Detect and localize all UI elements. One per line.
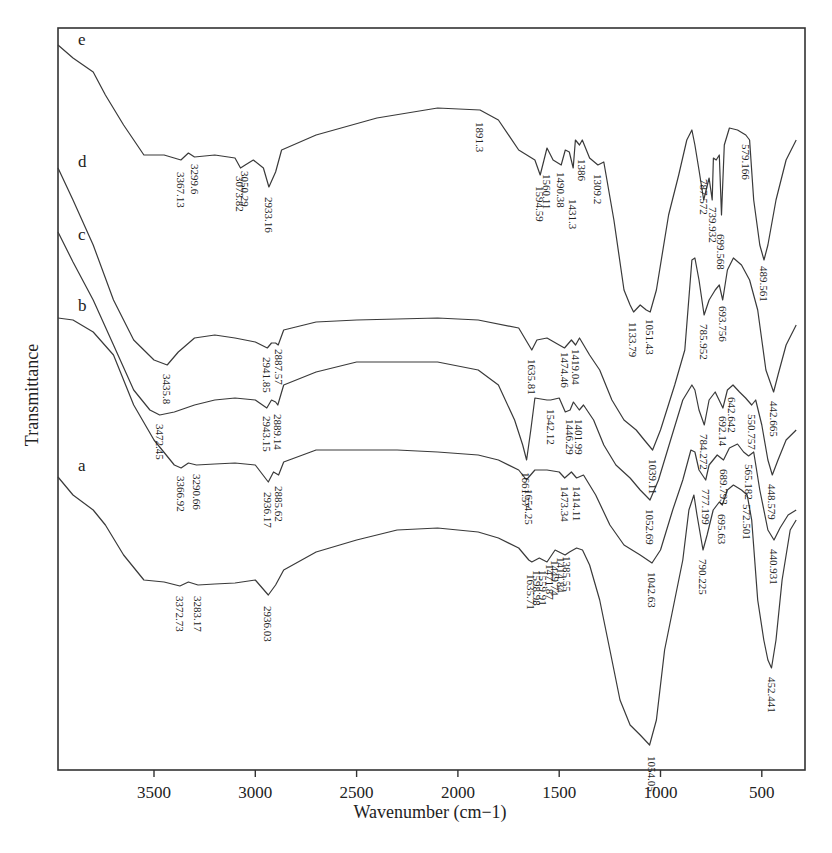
peak-label: 1054.05 bbox=[646, 756, 658, 792]
curve-label-d: d bbox=[78, 152, 87, 171]
peak-label: 642.642 bbox=[726, 397, 738, 433]
x-tick-label: 3500 bbox=[137, 783, 171, 802]
peak-labels-group: 3367.133299.63073.823050.292933.161891.3… bbox=[154, 122, 780, 792]
peak-label: 2887.57 bbox=[273, 349, 285, 385]
x-axis-label: Wavenumber (cm−1) bbox=[353, 802, 506, 823]
peak-label: 1039.11 bbox=[647, 459, 659, 494]
x-tick-label: 500 bbox=[749, 783, 775, 802]
peak-label: 1133.79 bbox=[627, 322, 639, 358]
peak-label: 442.665 bbox=[768, 401, 780, 437]
curve-label-a: a bbox=[78, 456, 86, 475]
peak-label: 3372.73 bbox=[174, 596, 186, 632]
peak-label: 1051.43 bbox=[644, 319, 656, 355]
peak-label: 777.199 bbox=[700, 489, 712, 525]
peak-label: 1474.46 bbox=[559, 352, 571, 388]
ftir-spectrum-chart: 350030002500200015001000500 3367.133299.… bbox=[0, 0, 832, 853]
y-axis-label: Transmittance bbox=[22, 344, 42, 446]
peak-label: 2889.14 bbox=[272, 414, 284, 450]
peak-label: 2941.85 bbox=[261, 357, 273, 393]
peak-label: 550.757 bbox=[746, 414, 758, 450]
peak-label: 3472.45 bbox=[154, 424, 166, 460]
curve-label-e: e bbox=[78, 30, 86, 49]
peak-label: 790.225 bbox=[697, 559, 709, 595]
peak-label: 448.579 bbox=[766, 484, 778, 520]
peak-label: 3299.6 bbox=[189, 164, 201, 195]
peak-label: 1419.04 bbox=[570, 349, 582, 385]
peak-label: 2936.03 bbox=[262, 606, 274, 642]
peak-label: 3435.8 bbox=[161, 374, 173, 405]
x-tick-label: 1500 bbox=[542, 783, 576, 802]
spectrum-e bbox=[58, 45, 796, 312]
peak-label: 693.756 bbox=[717, 306, 729, 342]
spectrum-b bbox=[58, 318, 796, 563]
peak-label: 1431.3 bbox=[567, 199, 579, 230]
peak-label: 3283.17 bbox=[192, 596, 204, 632]
peak-label: 1309.2 bbox=[592, 174, 604, 204]
x-tick-label: 2500 bbox=[340, 783, 374, 802]
curve-labels-group: edcba bbox=[78, 30, 87, 475]
peak-label: 2885.62 bbox=[273, 486, 285, 522]
peak-label: 785.952 bbox=[698, 324, 710, 360]
peak-label: 579.166 bbox=[740, 144, 752, 180]
peak-label: 2936.17 bbox=[262, 492, 274, 528]
spectrum-c bbox=[58, 232, 796, 500]
peak-label: 565.182 bbox=[743, 464, 755, 500]
peak-label: 440.931 bbox=[768, 549, 780, 585]
peak-label: 572.501 bbox=[741, 504, 753, 540]
peak-label: 1542.12 bbox=[545, 409, 557, 445]
peak-label: 2933.16 bbox=[263, 197, 275, 233]
peak-label: 1490.38 bbox=[555, 172, 567, 208]
peak-label: 695.63 bbox=[716, 514, 728, 545]
peak-label: 689.793 bbox=[718, 469, 730, 505]
peak-label: 1473.34 bbox=[559, 486, 571, 522]
x-tick-label: 3000 bbox=[238, 783, 272, 802]
spectrum-a bbox=[58, 477, 796, 745]
spectrum-d bbox=[58, 168, 796, 450]
peak-label: 1052.69 bbox=[644, 509, 656, 545]
peak-label: 1385.55 bbox=[561, 556, 573, 592]
x-axis-ticks: 350030002500200015001000500 bbox=[137, 770, 775, 802]
peak-label: 1414.11 bbox=[571, 486, 583, 521]
peak-label: 699.568 bbox=[715, 234, 727, 270]
peak-label: 3366.92 bbox=[175, 476, 187, 512]
curve-label-c: c bbox=[78, 225, 86, 244]
peak-label: 3367.13 bbox=[175, 172, 187, 208]
peak-label: 1386 bbox=[576, 159, 588, 182]
peak-label: 489.561 bbox=[758, 266, 770, 302]
peak-label: 3290.66 bbox=[191, 474, 203, 510]
peak-label: 1560.11 bbox=[541, 174, 553, 209]
peak-label: 1401.99 bbox=[573, 419, 585, 455]
peak-label: 2943.15 bbox=[261, 416, 273, 452]
peak-label: 3050.29 bbox=[239, 171, 251, 207]
peak-label: 784.272 bbox=[698, 434, 710, 470]
x-tick-label: 2000 bbox=[441, 783, 475, 802]
peak-label: 1042.63 bbox=[646, 572, 658, 608]
peak-label: 1891.3 bbox=[474, 122, 486, 153]
peak-label: 1654.25 bbox=[523, 489, 535, 525]
curve-label-b: b bbox=[78, 296, 87, 315]
peak-label: 1635.81 bbox=[526, 359, 538, 395]
peak-label: 452.441 bbox=[766, 677, 778, 713]
